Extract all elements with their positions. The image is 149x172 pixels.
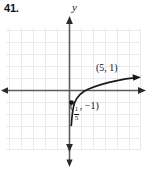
- fraction-numerator: 1: [74, 106, 80, 113]
- fraction-denominator: 5: [74, 115, 80, 122]
- point-label-one-fifth-neg-one: (15, −1): [70, 100, 99, 122]
- coordinate-plane: [0, 0, 149, 172]
- fraction-one-fifth: 15: [74, 106, 80, 122]
- figure-container: 41. y: [0, 0, 149, 172]
- y-axis-arrow-up: [66, 16, 73, 24]
- x-axis: [1, 87, 146, 94]
- grid-lines: [6, 28, 141, 150]
- y-axis-arrow-down: [66, 144, 73, 152]
- paren-open: (: [70, 100, 73, 111]
- curve-arrow-right: [133, 74, 142, 81]
- point-label-5-1: (5, 1): [96, 62, 118, 73]
- x-axis-arrow-left: [1, 87, 8, 93]
- x-axis-arrow-right: [138, 87, 146, 94]
- y-axis: [66, 16, 73, 167]
- point-label-remainder: , −1): [80, 100, 99, 111]
- y-axis-arrow-down-outer: [66, 160, 72, 168]
